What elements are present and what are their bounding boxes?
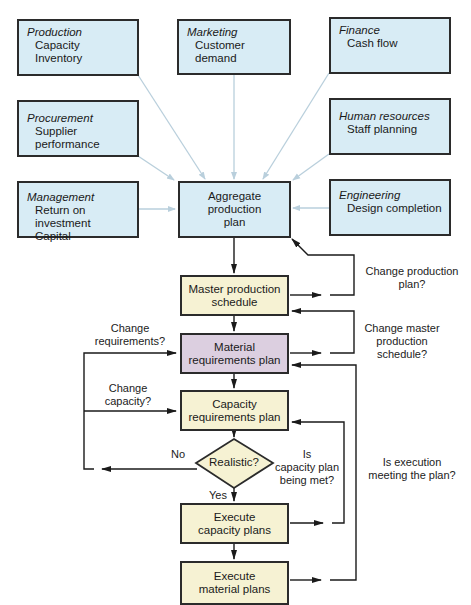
- realistic-decision-label: Realistic?: [196, 456, 272, 468]
- production-title: Production: [27, 26, 137, 39]
- procurement-item-supplier-performance: Supplier performance: [27, 125, 137, 151]
- execute-material-plans-box: Execute material plans: [180, 561, 289, 605]
- marketing-item-customer-demand: Customer demand: [187, 39, 289, 65]
- execution-meeting-plan-label: Is execution meeting the plan?: [364, 456, 460, 482]
- engineering-item-design-completion: Design completion: [339, 202, 449, 215]
- production-item-inventory: Inventory: [27, 52, 137, 65]
- capacity-requirements-plan-label: Capacity requirements plan: [188, 398, 280, 424]
- management-item-capital: Capital: [27, 230, 137, 243]
- procurement-title: Procurement: [27, 112, 137, 125]
- engineering-title: Engineering: [339, 189, 449, 202]
- execute-capacity-plans-box: Execute capacity plans: [180, 503, 289, 544]
- aggregate-production-plan-box: Aggregate production plan: [178, 181, 291, 238]
- change-requirements-label: Change requirements?: [94, 322, 166, 348]
- aggregate-production-plan-label: Aggregate production plan: [208, 190, 262, 229]
- human-resources-box: Human resources Staff planning: [329, 98, 451, 155]
- human-resources-item-staff-planning: Staff planning: [339, 123, 449, 136]
- finance-item-cash-flow: Cash flow: [339, 37, 449, 50]
- management-item-roi: Return on investment: [27, 204, 137, 230]
- production-item-capacity: Capacity: [27, 39, 137, 52]
- change-production-plan-label: Change production plan?: [362, 265, 462, 291]
- management-box: Management Return on investment Capital: [17, 181, 139, 238]
- marketing-box: Marketing Customer demand: [177, 19, 291, 75]
- yes-label: Yes: [205, 489, 231, 502]
- management-title: Management: [27, 191, 137, 204]
- material-requirements-plan-box: Material requirements plan: [180, 333, 289, 374]
- finance-box: Finance Cash flow: [329, 17, 451, 74]
- execute-capacity-plans-label: Execute capacity plans: [198, 511, 271, 537]
- human-resources-title: Human resources: [339, 110, 449, 123]
- production-box: Production Capacity Inventory: [17, 19, 139, 76]
- change-master-schedule-label: Change master production schedule?: [362, 322, 442, 361]
- capacity-plan-met-label: Is capacity plan being met?: [272, 448, 342, 487]
- capacity-requirements-plan-box: Capacity requirements plan: [180, 390, 289, 431]
- execute-material-plans-label: Execute material plans: [199, 570, 271, 596]
- procurement-box: Procurement Supplier performance: [17, 100, 139, 157]
- engineering-box: Engineering Design completion: [329, 179, 451, 236]
- master-production-schedule-label: Master production schedule: [188, 283, 280, 309]
- change-capacity-label: Change capacity?: [96, 382, 160, 408]
- material-requirements-plan-label: Material requirements plan: [188, 341, 280, 367]
- no-label: No: [166, 448, 190, 461]
- finance-title: Finance: [339, 24, 449, 37]
- master-production-schedule-box: Master production schedule: [180, 275, 289, 316]
- marketing-title: Marketing: [187, 26, 289, 39]
